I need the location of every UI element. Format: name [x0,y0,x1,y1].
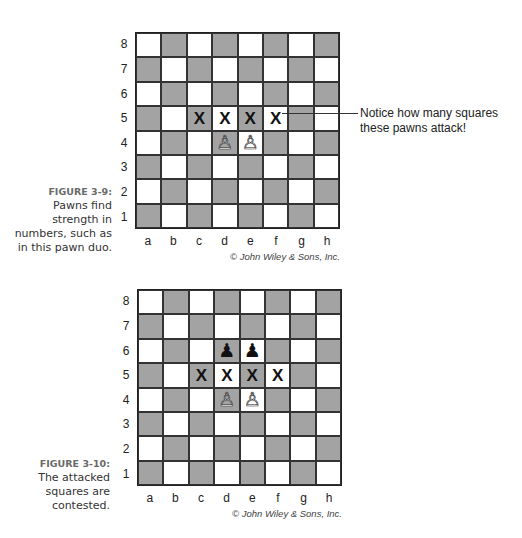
callout-line [337,113,358,114]
square-a8 [138,290,163,314]
square-f6 [265,339,290,363]
figure-caption: FIGURE 3-9: Pawns find strength in numbe… [2,185,112,255]
white-pawn-icon: ♙ [244,390,261,409]
square-a3 [136,155,161,179]
square-b3 [163,412,188,436]
square-e4: ♙ [238,131,263,155]
square-f3 [263,155,288,179]
square-f1 [263,204,288,228]
square-h2 [314,179,339,203]
square-d2 [212,179,237,203]
square-e5: X [238,106,263,130]
square-a7 [138,314,163,338]
square-c4 [187,131,212,155]
square-g2 [290,436,315,460]
square-a8 [136,33,161,57]
rank-label: 4 [120,393,132,407]
square-g3 [288,155,313,179]
square-b6 [163,339,188,363]
square-g1 [290,461,315,485]
square-g6 [288,82,313,106]
callout-line-2: these pawns attack! [360,121,498,136]
square-c1 [187,204,212,228]
square-c1 [189,461,214,485]
square-h1 [314,204,339,228]
square-g8 [290,290,315,314]
square-e3 [240,412,265,436]
square-b1 [161,204,186,228]
file-label: e [240,491,266,505]
square-h4 [314,131,339,155]
square-b7 [161,57,186,81]
square-a5 [136,106,161,130]
rank-label: 4 [118,136,130,150]
square-e6: ♟ [240,339,265,363]
chessboard: XXXX♙♙ [135,32,340,229]
square-b2 [161,179,186,203]
attack-marker: X [270,110,281,127]
callout-line [282,113,337,114]
black-pawn-icon: ♟ [218,341,235,360]
square-d4: ♙ [212,131,237,155]
attack-marker: X [194,110,205,127]
rank-label: 6 [118,87,130,101]
square-c4 [189,388,214,412]
square-d5: X [212,106,237,130]
caption-line: Pawns find [2,199,112,213]
square-d1 [212,204,237,228]
square-f5: X [263,106,288,130]
copyright: © John Wiley & Sons, Inc. [232,508,342,519]
square-g3 [290,412,315,436]
square-f7 [265,314,290,338]
rank-label: 7 [120,319,132,333]
square-a4 [138,388,163,412]
square-e8 [240,290,265,314]
square-f4 [265,388,290,412]
square-b5 [161,106,186,130]
square-a2 [136,179,161,203]
file-label: g [289,234,315,248]
square-g7 [290,314,315,338]
file-label: c [186,234,212,248]
square-g5 [290,363,315,387]
square-b6 [161,82,186,106]
square-b2 [163,436,188,460]
square-h8 [314,33,339,57]
square-a2 [138,436,163,460]
square-c6 [187,82,212,106]
square-g2 [288,179,313,203]
file-label: f [263,234,289,248]
square-g7 [288,57,313,81]
square-f7 [263,57,288,81]
square-c7 [189,314,214,338]
square-f1 [265,461,290,485]
square-h4 [316,388,341,412]
square-e6 [238,82,263,106]
square-g8 [288,33,313,57]
square-c3 [189,412,214,436]
square-e4: ♙ [240,388,265,412]
square-h8 [316,290,341,314]
file-label: b [163,491,189,505]
rank-label: 5 [118,111,130,125]
square-g5 [288,106,313,130]
black-pawn-icon: ♟ [244,341,261,360]
square-d8 [212,33,237,57]
file-label: d [212,234,238,248]
square-a3 [138,412,163,436]
file-label: f [265,491,291,505]
square-b8 [161,33,186,57]
square-e7 [238,57,263,81]
attack-marker: X [221,367,232,384]
square-a1 [138,461,163,485]
square-e1 [240,461,265,485]
square-h6 [314,82,339,106]
attack-marker: X [245,110,256,127]
square-h3 [316,412,341,436]
square-e2 [240,436,265,460]
square-a7 [136,57,161,81]
attack-marker: X [272,367,283,384]
square-c8 [187,33,212,57]
callout-text: Notice how many squares these pawns atta… [360,106,498,136]
chessboard: ♟♟XXXX♙♙ [137,289,342,486]
